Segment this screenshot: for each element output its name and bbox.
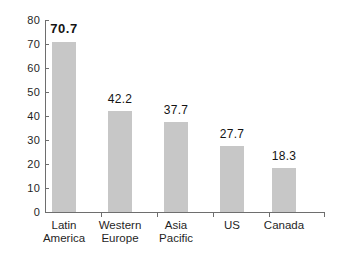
x-axis-tick	[101, 213, 102, 217]
x-axis-tick	[324, 213, 325, 217]
y-axis-label-10: 10	[0, 183, 40, 194]
bar-western-europe	[108, 111, 132, 212]
category-label-western-europe: Western Europe	[92, 219, 148, 245]
y-axis-label-0: 0	[0, 207, 40, 218]
bar-asia-pacific	[164, 122, 188, 213]
y-axis-label-70: 70	[0, 39, 40, 50]
value-label-canada: 18.3	[256, 150, 312, 162]
value-label-western-europe: 42.2	[92, 93, 148, 105]
y-axis-tick	[45, 44, 49, 45]
x-axis-tick	[157, 213, 158, 217]
y-axis-tick	[45, 212, 49, 213]
value-label-latin-america: 70.7	[36, 23, 92, 35]
y-axis-tick	[45, 116, 49, 117]
y-axis-tick	[45, 188, 49, 189]
bar-latin-america	[52, 42, 76, 212]
category-label-asia-pacific: Asia Pacific	[148, 219, 204, 245]
y-axis-tick	[45, 20, 49, 21]
y-axis-label-20: 20	[0, 159, 40, 170]
x-axis-tick	[269, 213, 270, 217]
x-axis-line	[45, 212, 325, 213]
bar-chart: 80 70 60 50 40 30 20 10 0 70.7 42.2 37.7…	[0, 0, 337, 258]
bar-us	[220, 146, 244, 213]
y-axis-label-30: 30	[0, 135, 40, 146]
y-axis-tick	[45, 92, 49, 93]
x-axis-tick	[213, 213, 214, 217]
y-axis-label-80: 80	[0, 15, 40, 26]
value-label-us: 27.7	[204, 128, 260, 140]
value-label-asia-pacific: 37.7	[148, 104, 204, 116]
y-axis-tick	[45, 140, 49, 141]
bar-canada	[272, 168, 296, 212]
y-axis-label-50: 50	[0, 87, 40, 98]
y-axis-label-60: 60	[0, 63, 40, 74]
category-label-us: US	[204, 219, 260, 232]
y-axis-tick	[45, 164, 49, 165]
category-label-canada: Canada	[256, 219, 312, 232]
y-axis-tick	[45, 68, 49, 69]
category-label-latin-america: Latin America	[36, 219, 92, 245]
y-axis-label-40: 40	[0, 111, 40, 122]
